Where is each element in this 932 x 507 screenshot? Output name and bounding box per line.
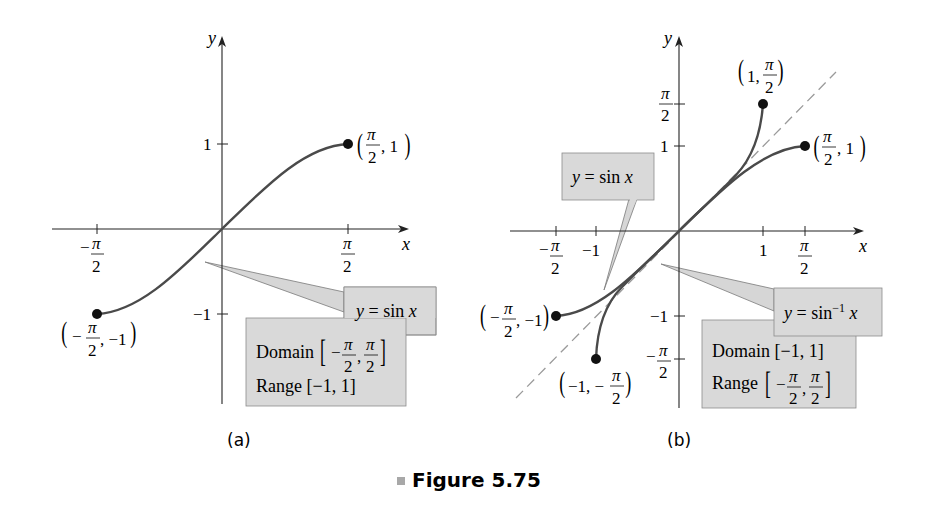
- svg-text:(: (: [480, 298, 486, 332]
- svg-text:2: 2: [800, 259, 809, 278]
- svg-text:−: −: [539, 240, 549, 259]
- point-label-neg-pi2-neg1-a: ( − π 2 , −1 ): [61, 315, 136, 360]
- tick-label-x-neg-pi2-a: − π 2: [80, 234, 104, 276]
- caption-marker-icon: [397, 477, 405, 485]
- tick-label-y-neg1-a: −1: [193, 305, 211, 324]
- svg-text:]: ]: [825, 365, 831, 401]
- panel-a: y x − π 2 π 2 1 −1 ( π 2 , 1 ) ( −: [52, 28, 436, 406]
- tick-label-x-pi2-b: π 2: [798, 236, 812, 278]
- point-label-neg1-neg-pi2-b: ( −1, − π 2 ): [559, 365, 631, 408]
- svg-text:2: 2: [661, 106, 670, 125]
- svg-text:−: −: [490, 308, 500, 327]
- svg-text:−: −: [72, 327, 82, 346]
- tick-label-x-neg-pi2-b: − π 2: [539, 236, 563, 278]
- panel-b: y x − π 2 −1 1 π 2 π 2 1 −1 − π 2: [480, 28, 882, 408]
- y-axis-label-b: y: [662, 28, 672, 48]
- svg-text:−: −: [80, 238, 90, 257]
- point-label-pi2-1-b: ( π 2 , 1 ): [814, 127, 866, 169]
- svg-text:2: 2: [551, 259, 560, 278]
- tick-label-x-1-b: 1: [759, 241, 768, 260]
- y-axis-label-a: y: [206, 28, 216, 48]
- tick-label-y-1-b: 1: [660, 137, 669, 156]
- svg-text:π: π: [366, 335, 375, 354]
- svg-text:2: 2: [88, 341, 97, 360]
- svg-text:2: 2: [659, 363, 668, 382]
- svg-text:1,: 1,: [747, 67, 760, 86]
- svg-text:π: π: [765, 55, 774, 74]
- svg-text:(: (: [559, 365, 565, 399]
- figure-caption: Figure 5.75: [412, 468, 541, 492]
- panel-a-label: (a): [227, 430, 251, 450]
- tick-label-y-1-a: 1: [203, 135, 212, 154]
- svg-text:2: 2: [344, 357, 353, 376]
- svg-text:π: π: [343, 234, 352, 253]
- svg-text:π: π: [344, 335, 353, 354]
- svg-text:2: 2: [368, 148, 377, 167]
- svg-text:2: 2: [789, 389, 798, 408]
- svg-text:): ): [130, 315, 136, 349]
- svg-text:): ): [625, 365, 631, 399]
- endpoint-a-end: [343, 139, 353, 149]
- endpoint-sin-start-b: [551, 311, 561, 321]
- svg-text:−: −: [776, 375, 786, 394]
- svg-text:(: (: [738, 53, 744, 87]
- svg-text:]: ]: [380, 333, 386, 369]
- svg-text:−: −: [646, 347, 656, 366]
- svg-text:2: 2: [765, 78, 774, 97]
- tick-label-y-pi2-b: π 2: [659, 84, 673, 125]
- svg-text:): ): [778, 53, 784, 87]
- svg-text:2: 2: [366, 357, 375, 376]
- svg-text:2: 2: [612, 389, 621, 408]
- svg-text:π: π: [504, 299, 513, 318]
- callout-pointer-a: [205, 262, 344, 312]
- svg-text:,: ,: [357, 347, 361, 366]
- svg-text:π: π: [823, 127, 832, 146]
- svg-text:, 1: , 1: [381, 137, 398, 156]
- svg-text:[: [: [765, 365, 771, 401]
- range-label-a: Range [−1, 1]: [256, 376, 356, 396]
- svg-text:2: 2: [811, 389, 820, 408]
- callout-pointer-asin-b: [661, 264, 774, 311]
- point-label-1-pi2-b: ( 1, π 2 ): [738, 53, 784, 97]
- endpoint-asin-end-b: [758, 99, 768, 109]
- svg-text:, −1: , −1: [100, 330, 127, 349]
- endpoint-asin-start-b: [591, 354, 601, 364]
- tick-label-x-pi2-a: π 2: [341, 234, 355, 276]
- point-label-neg-pi2-neg1-b: ( − π 2 , −1 ): [480, 298, 549, 341]
- svg-text:(: (: [814, 129, 820, 163]
- svg-text:π: π: [92, 234, 101, 253]
- svg-text:π: π: [800, 236, 809, 255]
- domain-label-b: Domain [−1, 1]: [712, 341, 824, 361]
- svg-text:−1, −: −1, −: [568, 377, 604, 396]
- svg-text:2: 2: [92, 257, 101, 276]
- callout-asin-label-b: y = sin−1 x: [782, 301, 857, 323]
- callout-sin-label-a: y = sin x: [354, 301, 417, 321]
- svg-text:2: 2: [824, 150, 833, 169]
- svg-text:π: π: [88, 318, 97, 337]
- svg-text:π: π: [659, 341, 668, 360]
- x-axis-label-a: x: [401, 234, 410, 254]
- svg-text:π: π: [661, 84, 670, 103]
- tick-label-y-neg-pi2-b: − π 2: [646, 341, 671, 382]
- svg-text:[: [: [320, 333, 326, 369]
- svg-text:(: (: [357, 127, 363, 161]
- tick-label-x-neg1-b: −1: [582, 241, 600, 260]
- callout-sin-label-b: y = sin x: [570, 167, 633, 187]
- x-axis-label-b: x: [858, 236, 867, 256]
- svg-text:π: π: [367, 125, 376, 144]
- svg-text:, 1: , 1: [837, 139, 854, 158]
- svg-text:2: 2: [343, 257, 352, 276]
- svg-text:π: π: [811, 367, 820, 386]
- figure-canvas: y x − π 2 π 2 1 −1 ( π 2 , 1 ) ( −: [0, 0, 932, 507]
- tick-label-y-neg1-b: −1: [650, 307, 668, 326]
- svg-text:(: (: [61, 315, 67, 349]
- svg-text:): ): [543, 298, 549, 332]
- panel-b-label: (b): [667, 430, 691, 450]
- range-label-b: Range: [712, 373, 758, 393]
- svg-text:π: π: [612, 366, 621, 385]
- point-label-pi2-1-a: ( π 2 , 1 ): [357, 125, 410, 167]
- svg-text:): ): [860, 129, 866, 163]
- svg-text:π: π: [789, 367, 798, 386]
- svg-text:,: ,: [802, 379, 806, 398]
- svg-text:π: π: [551, 236, 560, 255]
